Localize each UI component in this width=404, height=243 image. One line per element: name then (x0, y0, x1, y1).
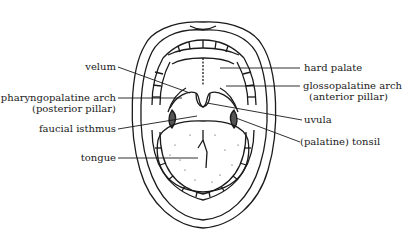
label-glossopalatine-arch: glossopalatine arch (anterior pillar) (303, 80, 402, 102)
mouth-diagram (0, 0, 404, 243)
label-glossopalatine-line2: (anterior pillar) (303, 91, 402, 102)
label-pharyngopalatine-line2: (posterior pillar) (1, 103, 116, 114)
label-velum: velum (85, 61, 116, 72)
leader-faucial (118, 116, 197, 129)
label-palatine-tonsil: (palatine) tonsil (300, 136, 380, 147)
label-glossopalatine-line1: glossopalatine arch (303, 80, 402, 91)
leader-uvula (207, 103, 302, 120)
label-pharyngopalatine-arch: pharyngopalatine arch (posterior pillar) (1, 92, 116, 114)
label-hard-palate: hard palate (304, 62, 362, 73)
leader-velum (118, 67, 190, 93)
label-uvula: uvula (304, 114, 332, 125)
label-pharyngopalatine-line1: pharyngopalatine arch (1, 92, 116, 103)
velum (170, 92, 236, 108)
label-faucial-isthmus: faucial isthmus (39, 123, 116, 134)
label-tongue: tongue (81, 152, 116, 163)
